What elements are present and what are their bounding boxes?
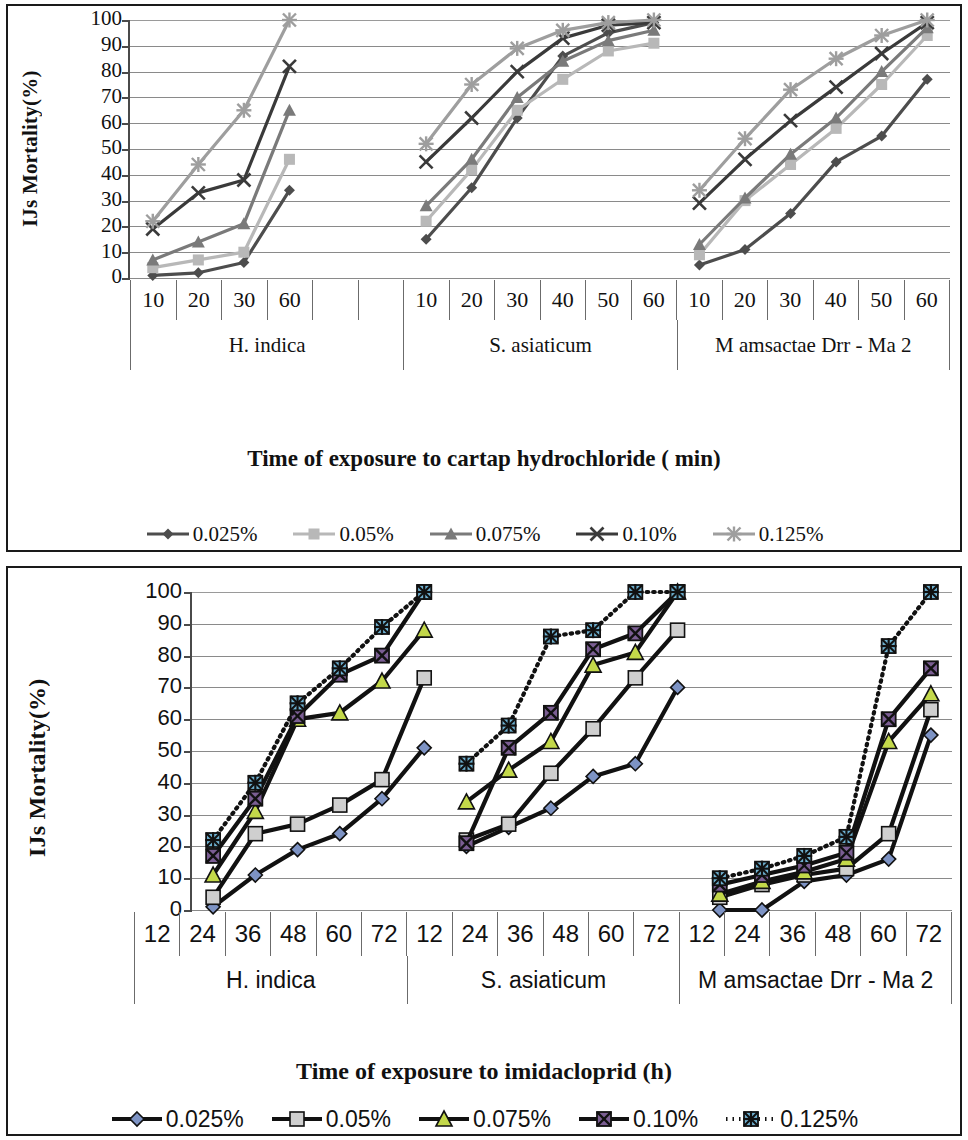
series-0.125pct-1: [419, 13, 662, 152]
legend-item-0.075pct[interactable]: 0.075%: [428, 522, 541, 547]
series-0.05pct-2: [694, 30, 933, 260]
legend-label: 0.025%: [193, 522, 258, 547]
legend-item-0.05pct[interactable]: 0.05%: [291, 522, 393, 547]
y-tick-label: 70: [42, 86, 122, 107]
x-tick-label: 60: [588, 912, 633, 956]
legend-label: 0.025%: [166, 1106, 244, 1133]
y-tick-label: 90: [92, 612, 182, 634]
series-0.025pct-0: [206, 741, 431, 914]
y-axis-ticks-imidacloprid: 1009080706050403020100: [92, 568, 182, 928]
x-axis-category-grid-cartap: 10203060102030405060102030405060H. indic…: [130, 280, 950, 370]
x-tick-label: 48: [270, 912, 315, 956]
x-tick-label: [358, 280, 404, 320]
legend-marker-star-icon: [711, 523, 757, 545]
x-axis-group-label: H. indica: [130, 320, 403, 370]
y-tick-label: 90: [42, 34, 122, 55]
legend-label: 0.075%: [473, 1106, 551, 1133]
x-tick-label: 50: [585, 280, 631, 320]
chart-panel-imidacloprid: IJs Mortality(%) 1009080706050403020100 …: [6, 566, 962, 1136]
series-0.10pct-2: [693, 16, 934, 210]
legend-item-0.025pct[interactable]: 0.025%: [110, 1106, 244, 1133]
x-axis-group-label: M amsactae Drr - Ma 2: [679, 956, 952, 1004]
x-tick-label: 40: [813, 280, 859, 320]
plot-area-cartap: [130, 20, 950, 278]
x-tick-label: 48: [815, 912, 860, 956]
series-0.125pct-0: [145, 13, 297, 229]
y-tick-label: 20: [92, 834, 182, 856]
legend-marker-triangle-icon: [428, 523, 474, 545]
y-tick-label: 40: [92, 771, 182, 793]
x-tick-label: 12: [134, 912, 179, 956]
y-tick-label: 30: [42, 189, 122, 210]
x-tick-label: 12: [406, 912, 451, 956]
x-tick-label: 60: [267, 280, 313, 320]
series-0.075pct-2: [693, 21, 934, 250]
x-tick-label: 24: [179, 912, 224, 956]
legend-item-0.10pct[interactable]: 0.10%: [577, 1106, 698, 1133]
y-tick-label: 30: [92, 803, 182, 825]
series-0.10pct-2: [713, 661, 938, 891]
x-tick-label: 24: [452, 912, 497, 956]
legend-marker-square-icon: [270, 1108, 324, 1130]
legend-item-0.125pct[interactable]: 0.125%: [711, 522, 824, 547]
x-tick-label: 20: [449, 280, 495, 320]
x-tick-label: 20: [722, 280, 768, 320]
series-0.10pct-0: [206, 585, 431, 863]
legend-marker-cross-icon: [574, 523, 620, 545]
legend-item-0.05pct[interactable]: 0.05%: [270, 1106, 391, 1133]
x-tick-label: 20: [176, 280, 222, 320]
series-0.10pct-1: [459, 585, 684, 850]
plot-area-imidacloprid: [192, 592, 952, 910]
x-tick-label: 48: [543, 912, 588, 956]
y-axis-ticks-cartap: 1009080706050403020100: [42, 6, 122, 296]
x-tick-label: 10: [676, 280, 722, 320]
x-axis-group-label: S. asiaticum: [407, 956, 680, 1004]
legend-item-0.025pct[interactable]: 0.025%: [145, 522, 258, 547]
gridline: [192, 910, 952, 911]
y-tick-label: 10: [92, 866, 182, 888]
legend-marker-starsq-icon: [724, 1108, 778, 1130]
x-axis-tick-row: 10203060102030405060102030405060: [130, 280, 950, 320]
x-tick-label: 72: [361, 912, 406, 956]
series-lines-imidacloprid: [192, 592, 952, 910]
series-0.075pct-1: [420, 24, 661, 211]
legend-item-0.075pct[interactable]: 0.075%: [417, 1106, 551, 1133]
x-tick-label: [312, 280, 358, 320]
x-tick-label: 12: [679, 912, 724, 956]
y-tick-label: 80: [42, 60, 122, 81]
legend-marker-diamond-icon: [145, 523, 191, 545]
series-0.075pct-2: [712, 686, 939, 901]
x-tick-label: 36: [497, 912, 542, 956]
x-tick-label: 24: [724, 912, 769, 956]
x-axis-tick-row: 122436486072122436486072122436486072: [134, 912, 952, 956]
x-tick-label: 40: [540, 280, 586, 320]
legend-marker-xsquare-icon: [577, 1108, 631, 1130]
series-0.05pct-0: [206, 671, 431, 904]
y-tick-label: 50: [42, 137, 122, 158]
legend-marker-square-icon: [291, 523, 337, 545]
y-tick-label: 80: [92, 644, 182, 666]
x-axis-title-imidacloprid: Time of exposure to imidacloprid (h): [8, 1058, 960, 1085]
x-tick-label: 36: [769, 912, 814, 956]
x-axis-group-row: H. indicaS. asiaticumM amsactae Drr - Ma…: [134, 956, 952, 1004]
legend-label: 0.10%: [633, 1106, 698, 1133]
x-tick-label: 10: [130, 280, 176, 320]
y-tick-label: 100: [42, 8, 122, 29]
legend-item-0.10pct[interactable]: 0.10%: [574, 522, 676, 547]
gridline: [130, 278, 950, 279]
y-axis-title-cartap: IJs Mortality(%): [18, 24, 43, 274]
legend-item-0.125pct[interactable]: 0.125%: [724, 1106, 858, 1133]
x-axis-title-cartap: Time of exposure to cartap hydrochloride…: [8, 446, 960, 472]
legend-label: 0.05%: [339, 522, 393, 547]
legend-label: 0.125%: [759, 522, 824, 547]
y-tick-label: 0: [42, 266, 122, 287]
y-tick-label: 40: [42, 163, 122, 184]
y-tick-label: 60: [42, 112, 122, 133]
x-tick-label: 50: [858, 280, 904, 320]
x-tick-label: 60: [631, 280, 677, 320]
series-lines-cartap: [130, 20, 950, 278]
legend-marker-diamond-icon: [110, 1108, 164, 1130]
legend-label: 0.05%: [326, 1106, 391, 1133]
x-tick-label: 60: [316, 912, 361, 956]
series-0.125pct-2: [712, 584, 939, 886]
